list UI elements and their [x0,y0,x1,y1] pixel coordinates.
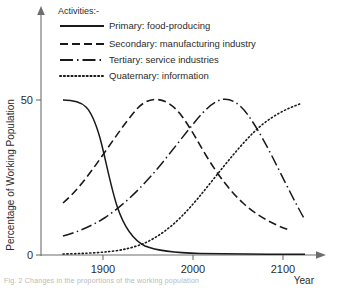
legend-item-quaternary: Quaternary: information [60,70,209,81]
y-axis [36,6,45,256]
y-tick-label-50: 50 [21,94,33,106]
series-quaternary-curve [63,104,300,254]
legend-label-tertiary: Tertiary: service industries [109,54,219,65]
x-tick-label-2100: 2100 [271,263,295,275]
legend-item-primary: Primary: food-producing [60,20,210,31]
figure-caption-text: Fig. 2 Changes in the proportions of the… [4,277,199,284]
series-secondary-curve [63,99,289,230]
series-primary-curve [63,100,305,254]
employment-sectors-line-chart: 50 0 1900 2000 2100 Percentage of Workin… [0,0,342,288]
y-tick-label-0: 0 [27,249,33,261]
legend-item-secondary: Secondary: manufacturing industry [60,38,256,49]
y-axis-title: Percentage of Working Population [5,99,16,251]
x-tick-label-2000: 2000 [181,263,205,275]
figure-caption: Fig. 2 Changes in the proportions of the… [0,276,342,288]
legend-label-secondary: Secondary: manufacturing industry [109,38,256,49]
legend-item-tertiary: Tertiary: service industries [60,54,219,65]
x-tick-label-1900: 1900 [91,263,115,275]
x-axis-arrow-icon [316,251,326,259]
y-axis-arrow-icon [37,6,45,15]
legend-label-quaternary: Quaternary: information [109,70,209,81]
chart-figure: 50 0 1900 2000 2100 Percentage of Workin… [0,0,342,288]
legend-heading: Activities:- [58,6,99,16]
chart-legend: Activities:- Primary: food-producing Sec… [58,6,256,81]
legend-label-primary: Primary: food-producing [109,20,210,31]
